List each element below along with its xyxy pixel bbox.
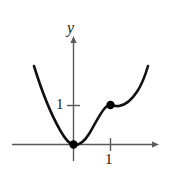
curve — [34, 66, 148, 145]
plot-canvas — [0, 0, 169, 186]
y-axis-arrowhead — [70, 36, 76, 43]
point-flat — [106, 101, 114, 109]
marked-points — [69, 101, 114, 149]
curve-path — [34, 66, 148, 145]
x-axis-tick-label-1: 1 — [105, 152, 113, 167]
y-axis-tick-label-1: 1 — [56, 97, 64, 112]
x-axis-arrowhead — [152, 141, 159, 147]
function-graph-figure: y 1 1 — [0, 0, 169, 186]
y-axis-label: y — [67, 20, 74, 36]
point-origin — [69, 140, 77, 148]
